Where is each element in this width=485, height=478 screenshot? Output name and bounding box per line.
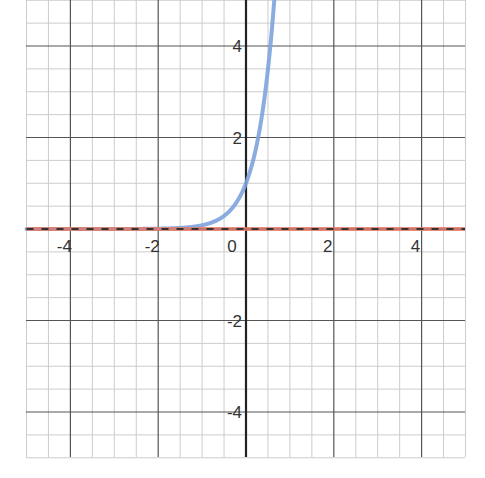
y-tick-label: -4: [227, 403, 242, 422]
y-tick-label: -2: [227, 312, 242, 331]
coordinate-plane: -4-202442-2-4: [0, 0, 485, 478]
y-tick-label: 4: [233, 37, 242, 56]
x-tick-label: -4: [57, 237, 72, 256]
x-tick-label: 0: [227, 237, 236, 256]
x-tick-label: 2: [323, 237, 332, 256]
x-tick-label: -2: [145, 237, 160, 256]
y-tick-label: 2: [233, 129, 242, 148]
x-tick-label: 4: [411, 237, 420, 256]
